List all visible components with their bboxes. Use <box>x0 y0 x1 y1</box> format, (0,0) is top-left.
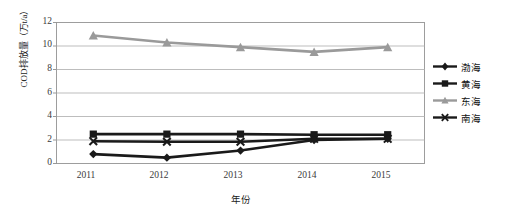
x-tick-label-2011: 2011 <box>56 170 116 180</box>
legend-label: 渤海 <box>461 60 481 74</box>
x-axis-title: 年份 <box>56 192 425 206</box>
legend-marker-square-icon <box>432 78 458 89</box>
chart-container: COD排放量（万t/a） 12 10 8 6 4 2 0 2011 2012 2… <box>0 0 512 220</box>
legend-item-nanhai[interactable]: 南海 <box>432 109 508 126</box>
data-point-square <box>163 131 170 138</box>
chart-legend: 渤海 黄海 东海 <box>432 58 508 126</box>
legend-marker-triangle-icon <box>432 95 458 106</box>
legend-label: 南海 <box>461 111 481 125</box>
legend-label: 黄海 <box>461 77 481 91</box>
x-tick-label-2015: 2015 <box>351 170 411 180</box>
legend-item-bohai[interactable]: 渤海 <box>432 58 508 75</box>
data-point-square <box>90 131 97 138</box>
x-tick-label-2013: 2013 <box>203 170 263 180</box>
data-point-square <box>237 131 244 138</box>
x-tick-label-2014: 2014 <box>277 170 337 180</box>
legend-marker-cross-icon <box>432 112 458 123</box>
legend-label: 东海 <box>461 94 481 108</box>
legend-item-donghai[interactable]: 东海 <box>432 92 508 109</box>
legend-item-huanghai[interactable]: 黄海 <box>432 75 508 92</box>
x-tick-label-2012: 2012 <box>129 170 189 180</box>
legend-marker-diamond-icon <box>432 61 458 72</box>
